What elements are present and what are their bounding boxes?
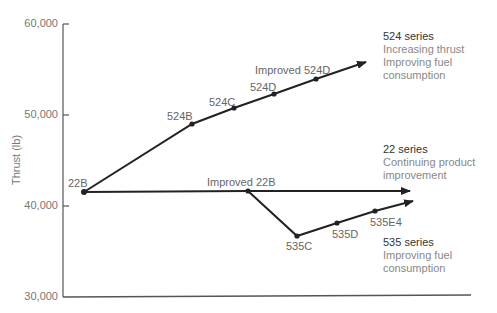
annotation-524-line1: Increasing thrust <box>383 43 464 56</box>
label-535C: 535C <box>286 240 312 252</box>
y-axis <box>63 24 69 297</box>
annotation-535-line1: Improving fuel <box>383 249 452 262</box>
annotation-535-line2: consumption <box>383 262 452 275</box>
series-524-line <box>84 62 366 192</box>
ytick-50000: 50,000 <box>0 108 58 120</box>
annotation-524-line3: consumption <box>383 69 464 82</box>
label-524B: 524B <box>167 110 193 122</box>
ytick-40000: 40,000 <box>0 199 58 211</box>
point-improved-524D <box>313 76 318 81</box>
annotation-524-series: 524 series Increasing thrust Improving f… <box>383 30 464 82</box>
ytick-30000: 30,000 <box>0 290 58 302</box>
annotation-524-line2: Improving fuel <box>383 56 464 69</box>
y-axis-label: Thrust (lb) <box>10 130 22 190</box>
point-535D <box>334 220 339 225</box>
label-524C: 524C <box>209 96 235 108</box>
label-524D: 524D <box>250 81 276 93</box>
annotation-22-series: 22 series Continuing product improvement <box>383 143 475 182</box>
point-22B <box>81 189 87 195</box>
point-535E4 <box>372 208 377 213</box>
ytick-60000: 60,000 <box>0 17 58 29</box>
label-improved-524D: Improved 524D <box>255 64 330 76</box>
annotation-524-title: 524 series <box>383 30 464 43</box>
annotation-535-series: 535 series Improving fuel consumption <box>383 236 452 275</box>
annotation-22-line2: improvement <box>383 169 475 182</box>
point-535C <box>294 233 299 238</box>
point-524B <box>189 121 194 126</box>
series-535-line <box>248 191 413 236</box>
label-535D: 535D <box>332 228 358 240</box>
label-improved-22B: Improved 22B <box>207 176 275 188</box>
label-535E4: 535E4 <box>370 216 402 228</box>
annotation-535-title: 535 series <box>383 236 452 249</box>
annotation-22-line1: Continuing product <box>383 156 475 169</box>
point-improved-22B <box>245 188 250 193</box>
label-22B: 22B <box>68 177 88 189</box>
annotation-22-title: 22 series <box>383 143 475 156</box>
x-axis <box>63 295 471 297</box>
